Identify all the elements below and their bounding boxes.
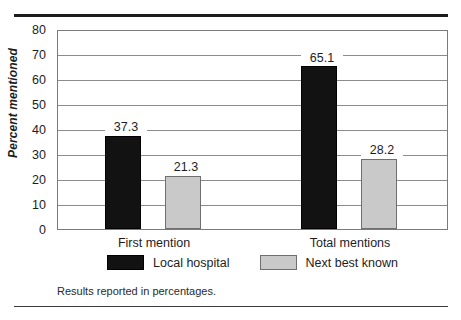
bar-total-mentions-next-best-known[interactable] <box>361 159 397 230</box>
value-label-first-mention-next-best-known: 21.3 <box>165 161 207 174</box>
chart-footnote: Results reported in percentages. <box>57 285 216 297</box>
y-tick-60: 60 <box>32 74 46 87</box>
legend-swatch-icon-next-best-known <box>260 255 297 270</box>
gridline-50 <box>58 105 447 106</box>
gridline-60 <box>58 80 447 81</box>
gridline-70 <box>58 55 447 56</box>
bar-total-mentions-local-hospital[interactable] <box>301 66 337 229</box>
y-tick-30: 30 <box>32 149 46 162</box>
x-category-first-mention: First mention <box>104 236 204 250</box>
chart-figure: 80 70 60 50 40 30 20 10 0 Percent mentio… <box>0 0 461 320</box>
chart-legend: Local hospital Next best known <box>57 255 448 270</box>
bar-first-mention-next-best-known[interactable] <box>165 176 201 229</box>
top-rule <box>14 14 448 17</box>
y-tick-20: 20 <box>32 174 46 187</box>
y-tick-10: 10 <box>32 199 46 212</box>
y-tick-70: 70 <box>32 49 46 62</box>
legend-label-next-best-known: Next best known <box>306 256 398 270</box>
x-category-total-mentions: Total mentions <box>300 236 400 250</box>
y-tick-40: 40 <box>32 124 46 137</box>
value-label-total-mentions-local-hospital: 65.1 <box>301 52 343 65</box>
y-axis-label: Percent mentioned <box>6 43 20 163</box>
y-tick-80: 80 <box>32 24 46 37</box>
y-tick-50: 50 <box>32 99 46 112</box>
bottom-rule <box>14 306 448 307</box>
legend-label-local-hospital: Local hospital <box>153 256 229 270</box>
value-label-first-mention-local-hospital: 37.3 <box>105 121 147 134</box>
bar-first-mention-local-hospital[interactable] <box>105 136 141 229</box>
legend-entry-next-best-known[interactable]: Next best known <box>260 255 398 270</box>
legend-entry-local-hospital[interactable]: Local hospital <box>107 255 229 270</box>
legend-swatch-icon-local-hospital <box>107 255 144 270</box>
value-label-total-mentions-next-best-known: 28.2 <box>361 144 403 157</box>
y-tick-0: 0 <box>39 224 46 237</box>
plot-area: 37.3 21.3 65.1 28.2 <box>57 30 448 230</box>
